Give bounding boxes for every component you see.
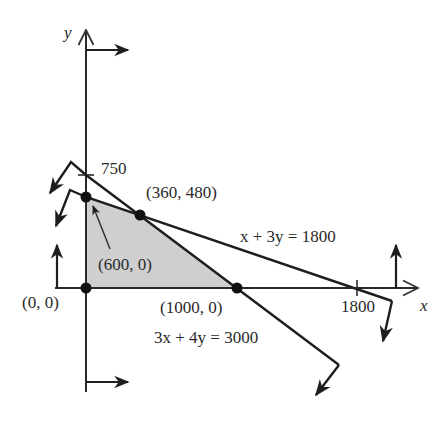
equation-text-2: 3x + 4y = 3000	[154, 328, 258, 347]
vertex-origin	[81, 283, 92, 294]
point-label-origin: (0, 0)	[22, 294, 59, 311]
diagram-canvas	[0, 0, 446, 429]
line-x-plus-3y-right-arrow-icon	[383, 301, 392, 341]
equation-label-2: 3x + 4y = 3000	[154, 329, 258, 346]
point-label-x-intercept: (1000, 0)	[160, 299, 222, 316]
y-tick-label: 750	[101, 160, 127, 177]
vertex-y-intercept	[81, 192, 92, 203]
equation-text-1: x + 3y = 1800	[240, 227, 336, 246]
vertex-intersection	[135, 210, 146, 221]
y-axis-label: y	[64, 24, 72, 41]
equation-label-1: x + 3y = 1800	[240, 228, 336, 245]
line-3x-plus-4y-bottom-arrow-icon	[316, 365, 339, 395]
x-tick-label: 1800	[341, 298, 375, 315]
x-axis-label: x	[420, 297, 428, 314]
feasible-region	[86, 197, 237, 288]
point-label-y-intercept: (600, 0)	[98, 256, 152, 273]
vertex-x-intercept	[232, 283, 243, 294]
feasible-region-diagram: y x 750 1800 (360, 480) (600, 0) (0, 0) …	[0, 0, 446, 429]
point-label-intersection: (360, 480)	[146, 184, 217, 201]
